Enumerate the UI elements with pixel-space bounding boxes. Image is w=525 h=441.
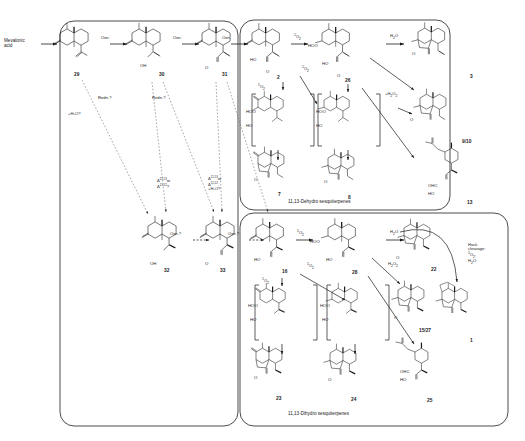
- atom-ho-28: HO: [326, 258, 332, 263]
- reagent-singlet-o2-1: 1O2: [294, 34, 301, 42]
- atom-o-7: O: [254, 178, 257, 183]
- compound-label-16: 16: [282, 269, 287, 274]
- atom-o-9-10: O: [410, 118, 413, 123]
- atom-hoo-28: HOO: [310, 240, 320, 245]
- compound-label-15-27: 15/27: [419, 328, 431, 333]
- compound-label-13: 13: [467, 200, 472, 205]
- atom-o-8: O: [324, 180, 327, 185]
- structure-8: [322, 149, 354, 180]
- atom-ho-int-b: HO: [316, 124, 322, 129]
- structure-7: [253, 147, 284, 178]
- annotation-plus-water-1: +H₂O?: [68, 112, 81, 116]
- reagent-singlet-o2-4: 1O2: [297, 230, 304, 238]
- compound-label-9-10: 9/10: [462, 139, 471, 144]
- atom-o-23: O: [254, 376, 257, 381]
- scheme-drawing-layer: [0, 0, 525, 441]
- reagent-oxn-2: Oxn.: [173, 36, 182, 40]
- atom-ho-13: HO: [428, 192, 434, 197]
- feedstock-line2: acid: [4, 43, 12, 48]
- atom-o-24: O: [328, 378, 331, 383]
- delta-b1-tail: or: [218, 176, 222, 181]
- structure-29: [54, 23, 88, 57]
- delta-annotation-a: Δ11,13or Δ11,12?: [157, 178, 170, 189]
- atom-hoo-int-b: HOO: [316, 110, 326, 115]
- delta-b3-water: +H₂O?: [208, 186, 220, 191]
- compound-label-31: 31: [222, 72, 227, 77]
- feedstock-line1: Mevalonic: [4, 38, 25, 43]
- atom-ho-2: HO: [250, 58, 256, 63]
- compound-label-2: 2: [277, 75, 280, 80]
- atom-oh-32: OH: [150, 262, 156, 267]
- compound-label-30: 30: [159, 72, 164, 77]
- structure-30: [126, 23, 160, 57]
- atom-ohc-25: OHC: [400, 370, 410, 375]
- atom-o-22: O: [396, 256, 399, 261]
- compound-label-28: 28: [352, 270, 357, 275]
- structure-13: [426, 138, 458, 180]
- reagent-peroxide-1: +H2O2: [385, 92, 397, 98]
- reagent-redn-1: Redn.?: [98, 96, 112, 100]
- reagent-water-1: H2O: [390, 34, 398, 40]
- atom-oh-30: OH: [140, 64, 146, 69]
- reagent-singlet-o2-2: 1O2: [302, 66, 309, 74]
- reagent-singlet-o2-3: 1O2: [258, 84, 265, 92]
- structure-24: [324, 344, 356, 375]
- compound-label-7: 7: [278, 192, 281, 197]
- structure-intermediate-a: [252, 91, 283, 122]
- structure-22: [398, 219, 430, 250]
- panel-precursors-border: [60, 21, 238, 426]
- compound-label-26: 26: [345, 78, 350, 83]
- structure-intermediate-b: [318, 91, 350, 122]
- compound-label-22: 22: [431, 267, 436, 272]
- delta-annotation-b: Δ11,13or Δ11,12, +H₂O?: [208, 176, 221, 192]
- panel-caption-dehydro: 11,13-Dehydro sesquiterpenes: [288, 200, 350, 205]
- feedstock-label: Mevalonic acid: [4, 38, 25, 49]
- atom-ho-25: HO: [400, 378, 406, 383]
- atom-o-31: O: [205, 66, 208, 71]
- delta-a2-tail: ?: [167, 184, 169, 189]
- reagent-singlet-o2-5: 1O2: [307, 263, 314, 271]
- structure-31: [196, 23, 230, 62]
- atom-ho-26: HO: [322, 62, 328, 67]
- structure-28: [321, 218, 355, 257]
- reaction-scheme-figure: Mevalonic acid Oxn. Oxn. Oxn. Oxn.? Oxn.…: [0, 0, 525, 441]
- structure-intermediate-c: [255, 283, 285, 314]
- atom-ohc-13: OHC: [428, 184, 438, 189]
- reagent-oxn-5: Oxn.?: [228, 232, 239, 236]
- panel-dehydro-border: [240, 20, 450, 210]
- structure-16: [250, 218, 283, 257]
- atom-hoo-26: HOO: [308, 44, 318, 49]
- compound-label-23: 23: [276, 396, 281, 401]
- atom-hoo-int-a: HOO: [246, 110, 256, 115]
- reagent-oxn-3: Oxn.: [222, 36, 231, 40]
- atom-ho-int-c: HO: [250, 318, 256, 323]
- reagent-redn-2: Redn.?: [152, 96, 166, 100]
- compound-label-29: 29: [74, 72, 79, 77]
- atom-o-15-27: O: [394, 316, 397, 321]
- reagent-peroxide-2: H2O2: [388, 262, 398, 268]
- compound-label-32: 32: [164, 268, 169, 273]
- atom-o-26: O: [337, 74, 340, 79]
- structure-26: [315, 23, 349, 62]
- delta-a1-superscript: 11,13: [160, 177, 167, 181]
- delta-b2-superscript: 11,12: [211, 181, 218, 185]
- delta-a2-superscript: 11,12: [160, 183, 167, 187]
- atom-ho-16: HO: [254, 258, 260, 263]
- reagent-water-2: H2O: [390, 230, 398, 236]
- atom-ho-int-a: HO: [246, 124, 252, 129]
- compound-label-3: 3: [470, 74, 473, 79]
- hock-cleavage-label: Hock cleavage: 1O2, H2O: [468, 243, 486, 266]
- compound-label-33: 33: [220, 268, 225, 273]
- panel-caption-dihydro: 11,13-Dihydro sesquiterpenes: [288, 412, 349, 417]
- atom-ho-int-d: HO: [322, 318, 328, 323]
- atom-o-2: O: [266, 70, 269, 75]
- structure-23: [251, 343, 282, 374]
- structure-3: [411, 22, 444, 54]
- atom-o-33: O: [205, 262, 208, 267]
- hock-line2: cleavage:: [468, 246, 486, 251]
- reagent-singlet-o2-6: 1O2: [262, 278, 269, 286]
- structure-15-27: [392, 281, 424, 312]
- delta-a1-tail: or: [167, 178, 171, 183]
- atom-o-3: O: [412, 52, 415, 57]
- compound-label-25: 25: [427, 398, 432, 403]
